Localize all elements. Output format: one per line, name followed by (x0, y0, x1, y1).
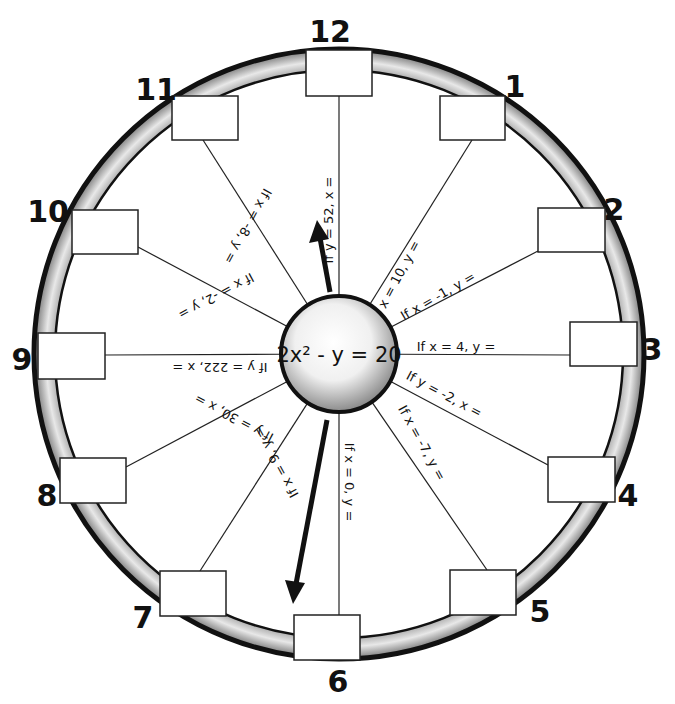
center-equation: 2x² - y = 20 (276, 343, 401, 367)
center-equation-ball: 2x² - y = 20 (276, 296, 401, 412)
hour-number-9: 9 (12, 342, 33, 377)
answer-box-11[interactable] (172, 96, 238, 140)
answer-box-4[interactable] (548, 457, 615, 502)
spoke-line-9 (105, 354, 281, 355)
hour-number-11: 11 (135, 72, 177, 107)
clock-diagram: If y = 52, x =If x = 10, y =If x = -1, y… (0, 0, 675, 704)
spoke-label-3: If x = 4, y = (417, 339, 496, 354)
spoke-line-3 (397, 354, 570, 355)
hour-number-2: 2 (604, 192, 625, 227)
hour-number-1: 1 (505, 69, 526, 104)
spoke-label-9: If y = 222, x = (172, 360, 267, 375)
answer-box-5[interactable] (450, 570, 516, 615)
answer-box-3[interactable] (570, 322, 637, 366)
answer-box-6[interactable] (294, 615, 360, 660)
hour-number-6: 6 (328, 664, 349, 699)
hour-number-10: 10 (27, 194, 69, 229)
answer-box-1[interactable] (440, 96, 505, 140)
hour-number-4: 4 (618, 478, 639, 513)
answer-box-10[interactable] (72, 210, 138, 254)
answer-box-7[interactable] (160, 571, 226, 616)
hour-number-5: 5 (530, 594, 551, 629)
answer-box-9[interactable] (38, 333, 105, 379)
spoke-label-6: If x = 0, y = (342, 443, 357, 522)
hour-number-12: 12 (309, 14, 351, 49)
answer-box-8[interactable] (60, 458, 126, 503)
hour-number-8: 8 (37, 478, 58, 513)
hour-number-3: 3 (642, 332, 663, 367)
hour-number-7: 7 (133, 600, 154, 635)
answer-box-2[interactable] (538, 208, 605, 252)
answer-box-12[interactable] (306, 50, 372, 96)
